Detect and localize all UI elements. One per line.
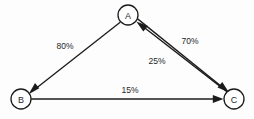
edge-b-to-c <box>31 95 223 103</box>
node-c-label: C <box>231 95 238 105</box>
edge-a-to-c-line <box>137 19 224 89</box>
edge-c-to-a-label: 25% <box>148 56 165 66</box>
edge-b-to-c-label: 15% <box>121 85 138 95</box>
node-b[interactable]: B <box>11 89 31 109</box>
edge-a-to-b-label: 80% <box>56 41 73 51</box>
edge-a-to-b-line <box>33 22 120 91</box>
node-a-label: A <box>125 11 131 21</box>
edge-a-to-c-label: 70% <box>181 36 198 46</box>
edge-a-to-b-arrowhead <box>29 83 40 94</box>
node-b-label: B <box>18 95 24 105</box>
node-a[interactable]: A <box>118 5 138 25</box>
node-c[interactable]: C <box>224 89 244 109</box>
edge-a-to-c-arrowhead <box>218 82 229 92</box>
graph-diagram: A B C 80% 70% 25% 15% <box>0 0 254 119</box>
diagram-canvas: A B C 80% 70% 25% 15% <box>0 0 254 119</box>
edge-b-to-c-arrowhead <box>213 95 224 103</box>
edge-a-to-b <box>29 22 121 94</box>
